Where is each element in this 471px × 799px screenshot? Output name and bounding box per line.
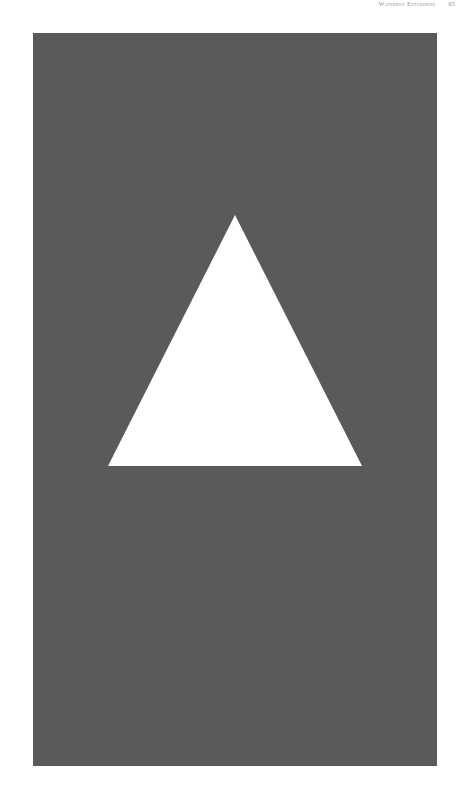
page-number: 65 <box>449 0 455 7</box>
white-triangle-icon <box>108 215 362 466</box>
document-page: Waterkop Enterprise 65 <box>0 0 471 799</box>
header-title: Waterkop Enterprise <box>378 0 435 7</box>
figure-canvas <box>33 33 437 766</box>
running-header: Waterkop Enterprise 65 <box>0 0 471 10</box>
figure-plate <box>33 33 437 766</box>
